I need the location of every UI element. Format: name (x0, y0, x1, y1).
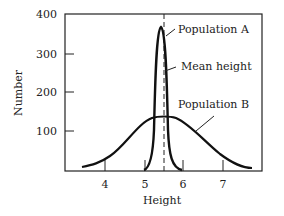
x-tick-6: 6 (180, 178, 187, 191)
y-tick-100: 100 (36, 125, 57, 138)
y-axis-ticks (65, 54, 74, 131)
population-a-curve (144, 27, 182, 170)
population-a-leader (166, 29, 175, 36)
mean-height-label: Mean height (181, 60, 252, 73)
population-b-leader (196, 116, 214, 131)
x-tick-7: 7 (220, 178, 227, 191)
population-a-label: Population A (178, 23, 250, 36)
y-tick-300: 300 (36, 48, 57, 61)
population-b-label: Population B (178, 98, 249, 111)
x-tick-4: 4 (102, 178, 109, 191)
y-axis-title: Number (12, 69, 25, 116)
y-tick-400: 400 (36, 8, 57, 21)
distribution-chart: 100 200 300 400 4 5 6 7 Height Number Po… (0, 0, 284, 216)
x-axis-title: Height (143, 194, 182, 207)
y-tick-200: 200 (36, 86, 57, 99)
x-tick-5: 5 (142, 178, 149, 191)
